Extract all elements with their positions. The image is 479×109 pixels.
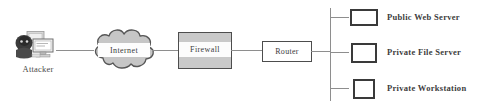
link-bus-to-node-2	[331, 88, 349, 89]
workstation-square-icon	[353, 79, 375, 99]
router-node: Router	[262, 41, 312, 62]
link-bus-to-node-0	[331, 17, 349, 18]
node-label-private-file-server: Private File Server	[387, 47, 461, 57]
link-attacker-to-internet	[56, 50, 94, 51]
server-rect-icon	[351, 43, 377, 63]
link-router-to-bus	[311, 51, 331, 52]
link-bus-to-node-1	[331, 52, 349, 53]
attacker-hacker-computer-icon	[14, 30, 58, 62]
server-rect-icon	[350, 9, 378, 26]
firewall-label: Firewall	[179, 42, 231, 57]
node-label-private-workstation: Private Workstation	[387, 83, 466, 93]
attacker-label: Attacker	[10, 64, 66, 74]
attacker-node: Attacker	[14, 30, 60, 80]
network-diagram: Attacker Internet Firewall Router Public…	[0, 0, 479, 109]
node-label-public-web-server: Public Web Server	[387, 12, 460, 22]
internet-label: Internet	[98, 43, 150, 57]
router-label: Router	[275, 47, 299, 56]
link-firewall-to-router	[231, 50, 263, 51]
link-internet-to-firewall	[152, 50, 179, 51]
